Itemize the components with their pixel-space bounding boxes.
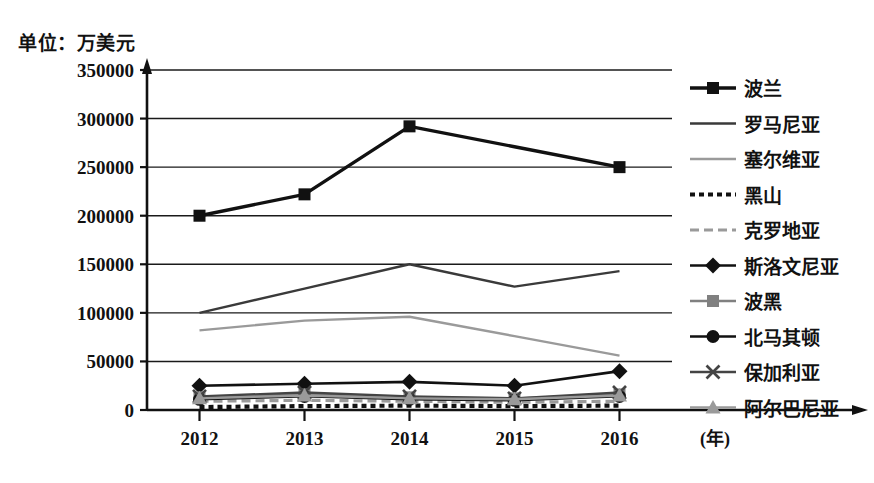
series-line xyxy=(200,406,620,407)
legend-label: 波黑 xyxy=(744,291,782,313)
legend-swatch-marker xyxy=(705,258,721,274)
chart-container: 单位：万美元 050000100000150000200000250000300… xyxy=(0,0,874,483)
legend-label: 斯洛文尼亚 xyxy=(744,256,839,278)
series-1 xyxy=(200,264,620,313)
series-marker xyxy=(614,161,626,173)
x-tick-label: 2016 xyxy=(601,428,639,449)
series-5 xyxy=(192,363,628,394)
series-0 xyxy=(194,120,626,221)
x-tick-label: 2015 xyxy=(496,428,534,449)
series-marker xyxy=(299,188,311,200)
x-axis-unit-label: (年) xyxy=(700,428,730,450)
series-line xyxy=(200,317,620,356)
legend-label: 塞尔维亚 xyxy=(744,149,820,171)
chart-canvas: 0500001000001500002000002500003000003500… xyxy=(0,0,874,483)
series-marker xyxy=(404,120,416,132)
x-tick-label: 2013 xyxy=(286,428,324,449)
series-line xyxy=(200,264,620,313)
x-axis-arrow xyxy=(852,405,868,415)
legend-swatch-marker xyxy=(707,295,719,307)
y-tick-label: 200000 xyxy=(77,206,134,227)
y-tick-label: 100000 xyxy=(77,303,134,324)
legend-item-0[interactable]: 波兰 xyxy=(690,78,782,100)
legend-swatch-marker xyxy=(707,330,720,343)
series-line xyxy=(200,126,620,215)
legend-item-5[interactable]: 斯洛文尼亚 xyxy=(690,256,839,278)
legend-item-9[interactable]: 阿尔巴尼亚 xyxy=(690,398,839,420)
legend-item-1[interactable]: 罗马尼亚 xyxy=(690,115,820,136)
series-marker xyxy=(402,374,418,390)
y-tick-label: 150000 xyxy=(77,254,134,275)
legend-item-3[interactable]: 黑山 xyxy=(690,186,782,207)
legend-label: 保加利亚 xyxy=(743,362,820,384)
legend-item-4[interactable]: 克罗地亚 xyxy=(690,220,820,242)
legend-label: 北马其顿 xyxy=(744,327,820,349)
series-2 xyxy=(200,317,620,356)
legend-label: 黑山 xyxy=(744,186,782,207)
x-tick-label: 2014 xyxy=(391,428,430,449)
y-axis-arrow xyxy=(142,58,152,74)
y-tick-label: 300000 xyxy=(77,109,134,130)
legend: 波兰罗马尼亚塞尔维亚黑山克罗地亚斯洛文尼亚波黑北马其顿保加利亚阿尔巴尼亚 xyxy=(690,78,839,420)
series-9 xyxy=(192,388,627,405)
y-tick-label: 350000 xyxy=(77,60,134,81)
legend-swatch-marker xyxy=(707,82,719,94)
y-tick-label: 250000 xyxy=(77,157,134,178)
legend-item-7[interactable]: 北马其顿 xyxy=(690,327,820,349)
series-marker xyxy=(194,210,206,222)
x-tick-label: 2012 xyxy=(181,428,219,449)
series-marker xyxy=(612,363,628,379)
series-3 xyxy=(200,406,620,407)
y-tick-label: 50000 xyxy=(87,351,135,372)
legend-item-2[interactable]: 塞尔维亚 xyxy=(690,149,820,171)
x-axis-ticks: 20122013201420152016(年) xyxy=(181,410,731,450)
legend-item-6[interactable]: 波黑 xyxy=(690,291,782,313)
legend-label: 克罗地亚 xyxy=(744,220,820,242)
legend-label: 波兰 xyxy=(744,78,782,100)
legend-item-8[interactable]: 保加利亚 xyxy=(690,362,820,384)
y-axis-ticks: 0500001000001500002000002500003000003500… xyxy=(77,60,147,421)
legend-label: 阿尔巴尼亚 xyxy=(744,398,839,420)
legend-label: 罗马尼亚 xyxy=(744,115,820,136)
y-tick-label: 0 xyxy=(125,400,135,421)
